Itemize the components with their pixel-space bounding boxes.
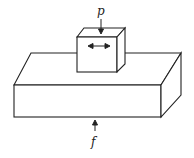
force-f-arrow-icon xyxy=(93,120,98,131)
force-p-label: p xyxy=(97,4,105,18)
slab-front-face xyxy=(14,85,161,117)
diagram-canvas: p f xyxy=(0,0,194,158)
force-f-label: f xyxy=(90,135,98,149)
cube-front-face xyxy=(77,37,117,72)
